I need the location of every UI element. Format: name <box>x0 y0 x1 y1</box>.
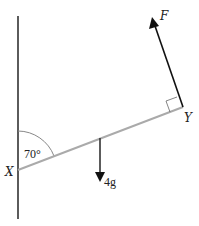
force-f-arrowhead <box>149 17 159 29</box>
label-y: Y <box>184 111 193 125</box>
label-4g: 4g <box>104 175 116 189</box>
angle-label: 70° <box>24 147 41 161</box>
label-f: F <box>159 9 169 23</box>
force-f-line <box>155 26 183 107</box>
label-x: X <box>4 165 14 179</box>
force-diagram: F Y X 70° 4g <box>0 0 199 226</box>
